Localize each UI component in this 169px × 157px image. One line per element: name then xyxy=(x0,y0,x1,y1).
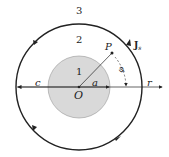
radius-a-label: a xyxy=(92,77,98,88)
point-label: P xyxy=(104,41,112,52)
radius-c-label: c xyxy=(35,77,41,88)
coaxial-diagram: 3 2 1 O P a c r φ Js xyxy=(0,0,169,157)
axis-r-label: r xyxy=(147,77,153,88)
current-arrow-icon xyxy=(126,39,131,46)
region-3-label: 3 xyxy=(76,5,82,16)
region-2-label: 2 xyxy=(76,34,82,45)
region-1-label: 1 xyxy=(76,66,82,77)
center-o xyxy=(78,86,81,89)
current-label: Js xyxy=(133,40,141,51)
center-label: O xyxy=(74,89,83,102)
angle-label: φ xyxy=(116,65,127,74)
